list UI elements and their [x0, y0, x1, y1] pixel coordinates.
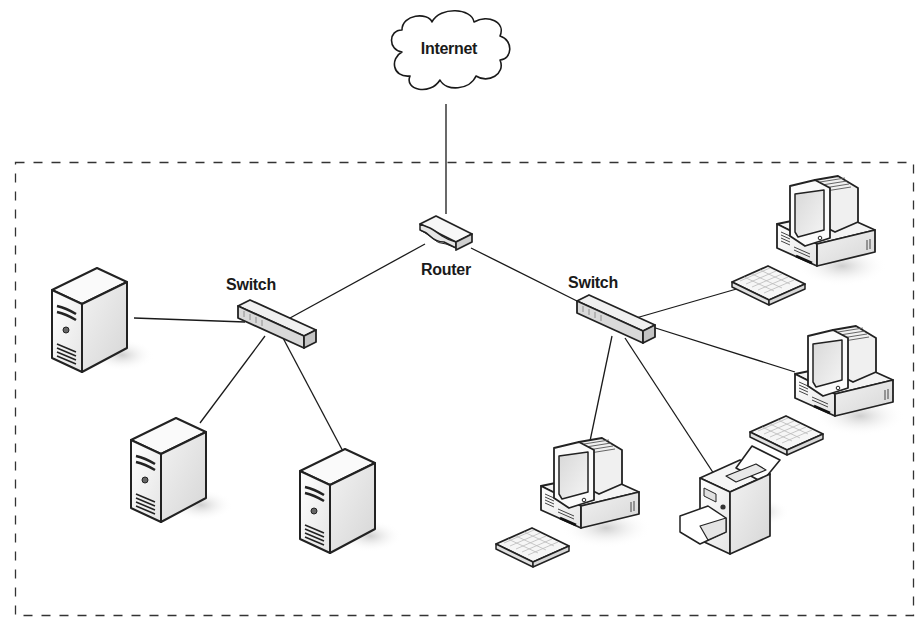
workstation-icon [750, 326, 905, 455]
link-switch-right-printer [625, 338, 714, 474]
router: Router [420, 216, 472, 278]
link-switch-right-workstation-3 [590, 336, 612, 441]
switch-right-label: Switch [568, 274, 618, 291]
workstation-icon [496, 438, 651, 567]
link-switch-left-server-3 [283, 338, 346, 457]
router-icon [420, 216, 472, 250]
internet-label: Internet [421, 40, 478, 57]
server-icon [52, 268, 154, 372]
switch-icon [577, 295, 655, 343]
link-switch-left-server-2 [200, 336, 265, 423]
link-switch-left-server-1 [134, 318, 245, 322]
printer-icon [680, 446, 790, 554]
switch-right: Switch [568, 274, 655, 343]
workstation-icon [732, 176, 887, 305]
switch-left-label: Switch [226, 276, 276, 293]
switch-left: Switch [226, 276, 316, 348]
link-switch-right-workstation-2 [646, 325, 795, 372]
link-router-switch-left [290, 244, 425, 318]
switch-icon [238, 300, 316, 348]
link-switch-right-workstation-1 [636, 288, 740, 318]
network-diagram: Internet Router Switch Switch [0, 0, 919, 630]
server-icon [131, 418, 233, 522]
server-icon [300, 449, 402, 553]
internet-cloud: Internet [392, 11, 510, 90]
router-label: Router [421, 261, 471, 278]
